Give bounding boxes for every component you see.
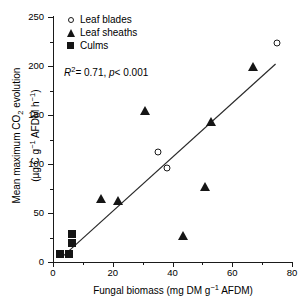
y-tick [48,262,53,263]
y-tick [48,17,53,18]
x-tick-minor [262,262,263,265]
x-tick-label: 60 [227,268,238,278]
marker-culms [65,250,73,258]
y-tick [48,164,53,165]
x-tick-minor [83,262,84,265]
x-title-tail: AFDM) [219,285,253,296]
y-tick-minor [50,91,53,92]
legend-item-leaf-sheaths[interactable]: Leaf sheaths [64,26,137,39]
p-value: < 0.001 [115,67,149,78]
marker-leaf-sheaths [140,106,150,115]
open-circle-icon [64,17,77,23]
r-squared-value: = 0.71, [75,67,106,78]
y-axis-title: Mean maximum CO2 evolution (µg C g−1 AFD… [11,13,42,258]
x-title-sup: −1 [210,283,219,292]
x-tick-label: 80 [287,268,298,278]
scatter-plot-figure: 020406080050100150200250 Leaf blades Lea… [0,0,307,305]
y-title-line2: (µg C g−1 AFDM h−1) [27,13,42,258]
marker-leaf-sheaths [206,117,216,126]
marker-leaf-blades [163,164,170,171]
y-tick-minor [50,238,53,239]
x-tick-minor [202,262,203,265]
legend-label: Culms [77,40,108,51]
x-title-main: Fungal biomass (mg DM g [93,285,210,296]
y-tick [48,213,53,214]
marker-leaf-sheaths [248,62,258,71]
y-axis-line [53,16,54,263]
x-tick-label: 40 [167,268,178,278]
marker-culms [68,239,76,247]
legend-label: Leaf sheaths [77,27,137,38]
legend-label: Leaf blades [77,14,132,25]
y-tick [48,66,53,67]
y-title-line1: Mean maximum CO2 evolution [11,13,27,258]
marker-culms [68,230,76,238]
x-tick-label: 0 [50,268,55,278]
marker-leaf-blades [274,40,281,47]
marker-leaf-sheaths [200,182,210,191]
marker-leaf-blades [154,149,161,156]
y-tick-minor [50,140,53,141]
marker-leaf-sheaths [96,194,106,203]
filled-square-icon [64,42,77,49]
y-tick-minor [50,189,53,190]
legend: Leaf blades Leaf sheaths Culms [64,13,137,52]
x-axis-title: Fungal biomass (mg DM g−1 AFDM) [53,283,293,296]
x-tick-minor [143,262,144,265]
marker-leaf-sheaths [178,231,188,240]
filled-triangle-icon [64,29,77,37]
legend-item-leaf-blades[interactable]: Leaf blades [64,13,137,26]
y-tick-label: 0 [16,257,44,267]
y-tick-minor [50,42,53,43]
marker-leaf-sheaths [113,196,123,205]
marker-culms [56,250,64,258]
y-tick [48,115,53,116]
legend-item-culms[interactable]: Culms [64,39,137,52]
x-tick-label: 20 [107,268,118,278]
stats-annotation: R2= 0.71, p< 0.001 [64,65,148,78]
